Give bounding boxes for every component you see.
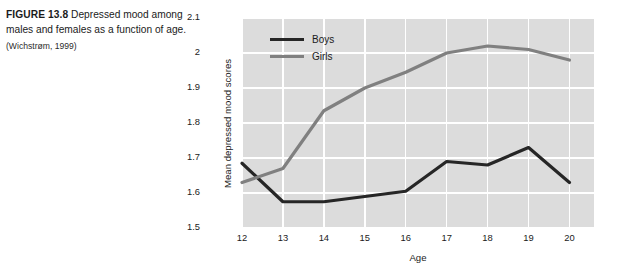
legend-item-boys: Boys — [270, 31, 334, 48]
plot-area: BoysGirls — [242, 18, 594, 228]
x-axis-tick-label: 19 — [514, 232, 544, 243]
figure-caption-label: FIGURE 13.8 — [6, 9, 68, 20]
x-axis-tick-label: 14 — [309, 232, 339, 243]
y-axis-tick-label: 2 — [160, 46, 200, 57]
x-axis-tick-label: 20 — [554, 232, 584, 243]
x-axis-tick-label: 18 — [473, 232, 503, 243]
y-axis-tick-label: 1.9 — [160, 81, 200, 92]
x-axis-title: Age — [242, 252, 594, 263]
legend-label-boys: Boys — [312, 34, 334, 45]
y-axis-tick-label: 2.1 — [160, 11, 200, 22]
x-axis-tick-label: 12 — [227, 232, 257, 243]
legend-label-girls: Girls — [312, 51, 333, 62]
legend-swatch-girls — [270, 55, 304, 58]
y-axis-tick-label: 1.5 — [160, 221, 200, 232]
x-axis-tick-label: 13 — [268, 232, 298, 243]
chart-legend: BoysGirls — [270, 31, 334, 65]
x-axis-tick-label: 15 — [350, 232, 380, 243]
x-axis-tick-label: 16 — [391, 232, 421, 243]
y-axis-tick-label: 1.7 — [160, 151, 200, 162]
series-line-girls — [242, 46, 569, 183]
y-axis-tick-label: 1.6 — [160, 186, 200, 197]
chart-figure: Mean depressed mood scores Age BoysGirls… — [200, 0, 624, 275]
legend-swatch-boys — [270, 38, 304, 41]
y-axis-tick-label: 1.8 — [160, 116, 200, 127]
legend-item-girls: Girls — [270, 48, 334, 65]
y-axis-title: Mean depressed mood scores — [222, 49, 233, 199]
x-axis-tick-label: 17 — [432, 232, 462, 243]
